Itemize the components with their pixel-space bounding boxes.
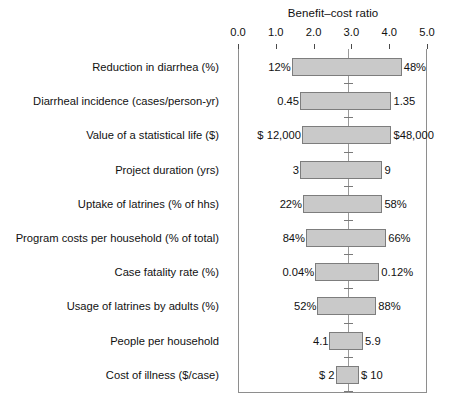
bar-low-value: 22%	[280, 198, 302, 210]
baseline-row-tick	[344, 220, 353, 221]
bar-high-value: 48%	[404, 61, 426, 73]
bar-high-value: 58%	[384, 198, 406, 210]
tornado-row: Program costs per household (% of total)…	[0, 221, 453, 255]
tornado-bar	[300, 161, 382, 179]
bar-low-value: 12%	[268, 61, 290, 73]
tornado-row: Case fatality rate (%)0.04%0.12%	[0, 255, 453, 289]
bar-high-value: 0.12%	[381, 266, 413, 278]
bar-high-value: 88%	[378, 300, 400, 312]
baseline-row-tick	[344, 186, 353, 187]
baseline-row-tick	[344, 117, 353, 118]
bar-high-value: $48,000	[393, 129, 433, 141]
row-label: Diarrheal incidence (cases/person-yr)	[33, 95, 219, 107]
x-axis-tick-mark	[238, 44, 239, 49]
row-label: Usage of latrines by adults (%)	[67, 300, 219, 312]
x-axis-tick-mark	[389, 44, 390, 49]
tornado-bar	[292, 58, 402, 76]
bar-low-value: 84%	[283, 232, 305, 244]
tornado-row: Project duration (yrs)39	[0, 153, 453, 187]
bar-low-value: 52%	[294, 300, 316, 312]
bar-high-value: 9	[384, 164, 390, 176]
bar-low-value: $ 12,000	[257, 129, 301, 141]
x-axis-tick-label: 3.0	[344, 26, 360, 38]
row-label: Case fatality rate (%)	[115, 266, 219, 278]
row-label: Uptake of latrines (% of hhs)	[78, 198, 219, 210]
x-axis-tick-mark	[314, 44, 315, 49]
baseline-row-tick	[344, 254, 353, 255]
bar-low-value: 0.04%	[282, 266, 314, 278]
baseline-row-tick	[344, 152, 353, 153]
tornado-bar	[302, 126, 392, 144]
row-label: Value of a statistical life ($)	[86, 129, 219, 141]
row-label: People per household	[110, 335, 219, 347]
baseline-row-tick	[344, 323, 353, 324]
bar-low-value: $ 2	[319, 369, 335, 381]
x-axis-tick-label: 5.0	[419, 26, 435, 38]
bar-high-value: 5.9	[365, 335, 381, 347]
baseline-row-tick	[344, 83, 353, 84]
tornado-row: Uptake of latrines (% of hhs)22%58%	[0, 187, 453, 221]
row-label: Reduction in diarrhea (%)	[92, 61, 219, 73]
x-axis-tick-label: 0.0	[230, 26, 246, 38]
chart-title: Benefit–cost ratio	[238, 7, 428, 19]
bar-low-value: 4.1	[313, 335, 329, 347]
bar-low-value: 3	[293, 164, 299, 176]
baseline-row-tick	[344, 357, 353, 358]
bar-high-value: 66%	[388, 232, 410, 244]
tornado-bar	[317, 297, 376, 315]
tornado-bar	[329, 332, 363, 350]
x-axis-tick-mark	[351, 44, 352, 49]
x-axis-tick-label: 2.0	[306, 26, 322, 38]
row-label: Project duration (yrs)	[115, 164, 219, 176]
tornado-bar	[306, 229, 386, 247]
x-axis-tick-label: 1.0	[268, 26, 284, 38]
x-axis-tick-mark	[276, 44, 277, 49]
tornado-chart-figure: Benefit–cost ratio 0.01.02.03.04.05.0 Re…	[0, 0, 453, 408]
tornado-bar	[315, 263, 379, 281]
x-axis-tick-mark	[427, 44, 428, 49]
x-axis-tick-label: 4.0	[381, 26, 397, 38]
tornado-row: Diarrheal incidence (cases/person-yr)0.4…	[0, 84, 453, 118]
tornado-row: Value of a statistical life ($)$ 12,000$…	[0, 118, 453, 152]
bar-high-value: 1.35	[393, 95, 415, 107]
bar-low-value: 0.45	[277, 95, 299, 107]
x-axis-tick-labels: 0.01.02.03.04.05.0	[238, 26, 428, 42]
row-label: Cost of illness ($/case)	[106, 369, 219, 381]
baseline-row-tick	[344, 391, 353, 392]
tornado-row: Reduction in diarrhea (%)12%48%	[0, 50, 453, 84]
row-label: Program costs per household (% of total)	[16, 232, 219, 244]
tornado-bar	[303, 195, 382, 213]
bar-high-value: $ 10	[361, 369, 383, 381]
tornado-bar	[300, 92, 391, 110]
tornado-row: Usage of latrines by adults (%)52%88%	[0, 289, 453, 323]
tornado-row: People per household4.15.9	[0, 324, 453, 358]
tornado-row: Cost of illness ($/case)$ 2$ 10	[0, 358, 453, 392]
tornado-bar	[336, 366, 359, 384]
baseline-row-tick	[344, 288, 353, 289]
